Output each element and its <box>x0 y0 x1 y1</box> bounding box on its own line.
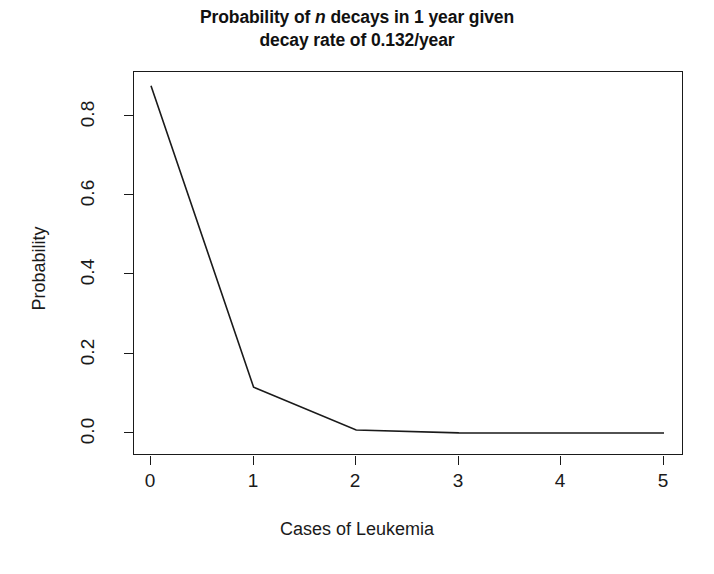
x-tick-label-4: 4 <box>540 470 580 492</box>
x-tick-mark-2 <box>355 456 356 465</box>
y-tick-label-wrap-0: 0.0 <box>58 420 118 444</box>
y-tick-label-wrap-3: 0.6 <box>58 182 118 206</box>
x-tick-mark-4 <box>560 456 561 465</box>
title-line-1-pre: Probability of <box>200 7 315 27</box>
plot-area <box>133 71 683 455</box>
y-tick-mark-0.0 <box>124 432 133 433</box>
y-tick-label-0.0: 0.0 <box>77 401 99 461</box>
x-tick-mark-5 <box>663 456 664 465</box>
title-line-1-post: decays in 1 year given <box>326 7 514 27</box>
title-italic-n: n <box>315 7 326 27</box>
x-tick-label-0: 0 <box>130 470 170 492</box>
data-series-line <box>151 86 664 433</box>
y-tick-label-wrap-2: 0.4 <box>58 261 118 285</box>
y-tick-label-0.4: 0.4 <box>77 242 99 302</box>
chart-title: Probability of n decays in 1 year given … <box>0 6 714 52</box>
chart-title-line-2: decay rate of 0.132/year <box>0 29 714 52</box>
chart-page: Probability of n decays in 1 year given … <box>0 0 714 574</box>
y-tick-label-wrap-1: 0.2 <box>58 341 118 365</box>
y-tick-label-0.6: 0.6 <box>77 163 99 223</box>
x-tick-label-1: 1 <box>233 470 273 492</box>
x-tick-label-2: 2 <box>335 470 375 492</box>
x-tick-label-5: 5 <box>643 470 683 492</box>
y-tick-mark-0.6 <box>124 194 133 195</box>
x-tick-mark-0 <box>150 456 151 465</box>
y-tick-mark-0.8 <box>124 115 133 116</box>
x-tick-label-3: 3 <box>438 470 478 492</box>
y-tick-mark-0.4 <box>124 273 133 274</box>
data-line-svg <box>134 72 684 456</box>
y-tick-label-wrap-4: 0.8 <box>58 103 118 127</box>
x-tick-mark-1 <box>253 456 254 465</box>
x-tick-mark-3 <box>458 456 459 465</box>
chart-title-line-1: Probability of n decays in 1 year given <box>0 6 714 29</box>
x-axis-title: Cases of Leukemia <box>0 519 714 540</box>
y-tick-label-0.8: 0.8 <box>77 84 99 144</box>
y-axis-title: Probability <box>29 204 50 334</box>
y-tick-mark-0.2 <box>124 353 133 354</box>
y-tick-label-0.2: 0.2 <box>77 322 99 382</box>
